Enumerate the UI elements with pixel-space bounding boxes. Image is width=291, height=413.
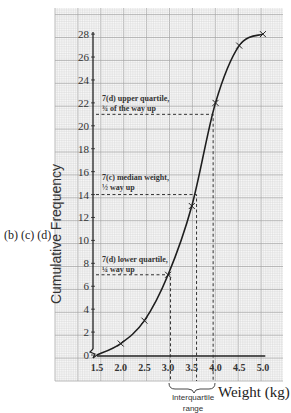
cumulative-frequency-chart: 02468101214161820222426281.52.02.53.03.5… [0,0,291,413]
y-tick-label: 20 [78,120,90,132]
y-tick-label: 8 [84,257,90,269]
x-tick-label: 4.5 [233,362,246,373]
y-tick-label: 10 [78,234,90,246]
upper-quartile-note-line1: 7(d) upper quartile, [102,94,169,103]
iqr-label-line2: range [166,403,220,413]
y-tick-label: 28 [78,28,90,40]
interquartile-range-label: Interquartile range [166,392,220,413]
x-tick-label: 3.0 [162,362,175,373]
x-tick-label: 5.0 [257,362,270,373]
upper-quartile-note-line2: ¾ of the way up [102,104,157,113]
lower-quartile-note-line1: 7(d) lower quartile, [102,255,168,264]
iqr-label-line1: Interquartile [166,392,220,403]
median-note-line2: ½ way up [102,183,135,192]
x-tick-label: 4.0 [209,362,222,373]
x-tick-label: 2.0 [114,362,127,373]
y-tick-label: 26 [78,51,90,63]
y-tick-label: 12 [78,211,89,223]
x-tick-label: 3.5 [186,362,199,373]
y-axis-label: Cumulative Frequency [48,164,64,304]
lower-quartile-note-line2: ¼ way up [102,265,135,274]
question-parts-label: (b) (c) (d) [4,228,51,243]
y-tick-label: 0 [84,349,90,361]
y-tick-label: 14 [78,189,90,201]
y-tick-label: 2 [84,326,90,338]
x-tick-label: 1.5 [91,362,104,373]
y-tick-label: 4 [84,303,90,315]
x-tick-label: 2.5 [138,362,151,373]
y-tick-label: 24 [78,74,90,86]
y-tick-label: 16 [78,166,90,178]
y-tick-label: 18 [78,143,90,155]
y-tick-label: 22 [78,97,89,109]
x-axis-label: Weight (kg) [218,384,290,401]
y-tick-label: 6 [84,280,90,292]
median-note-line1: 7(c) median weight, [102,173,169,182]
